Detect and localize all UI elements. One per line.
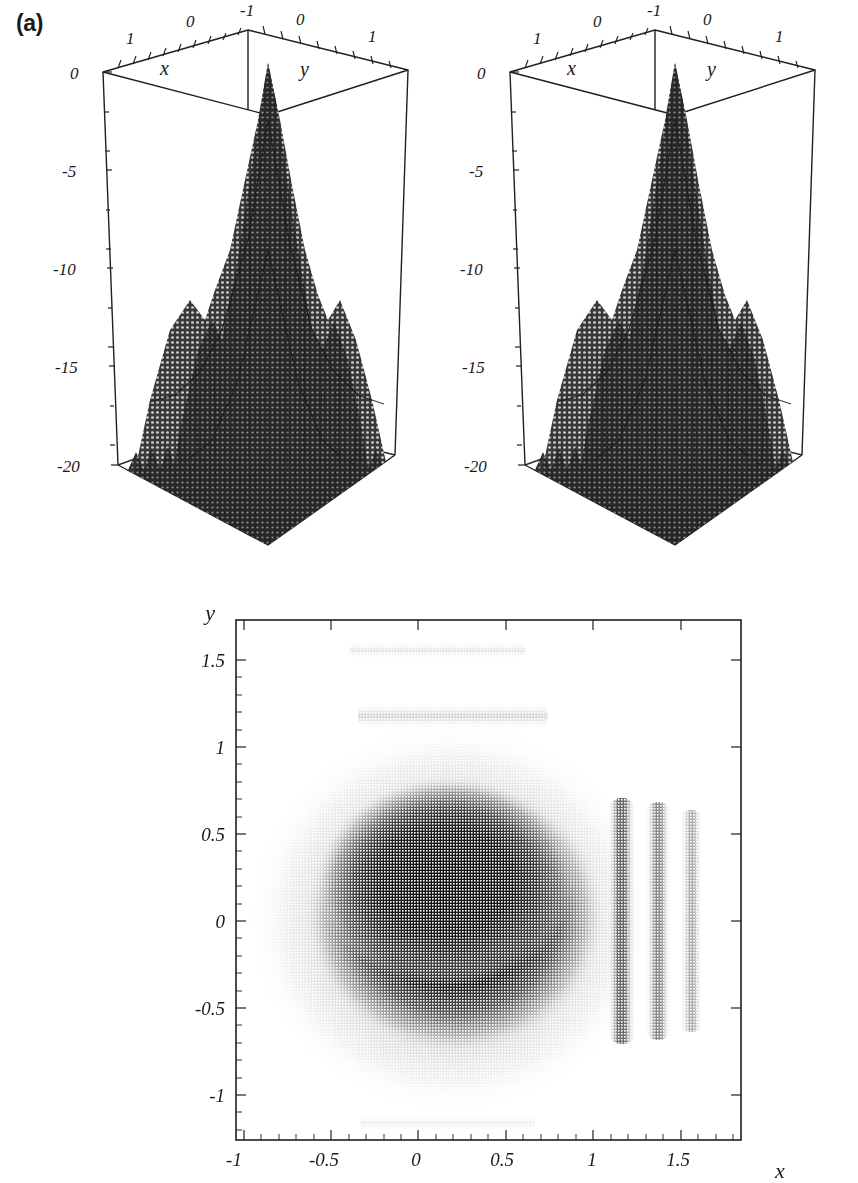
z-tick-m5: -5 xyxy=(469,162,483,181)
x-tick-1: 1 xyxy=(126,29,135,48)
horizontal-fringe-1 xyxy=(358,702,548,730)
vertical-fringe-2 xyxy=(645,802,671,1040)
z-tick-0: 0 xyxy=(70,64,79,83)
y-axis-label: y xyxy=(298,58,309,81)
x-tick-m1: -1 xyxy=(647,1,661,20)
x-tick-label-1: -0.5 xyxy=(309,1149,339,1170)
x-tick-label-4: 1 xyxy=(587,1149,597,1170)
y-tick-label-3: 0 xyxy=(216,911,226,932)
z-tick-m15: -15 xyxy=(55,358,78,377)
surface-plot-left: 0 -5 -10 -15 -20 xyxy=(0,0,429,580)
y-tick-label-4: -0.5 xyxy=(195,998,225,1019)
z-tick-m15: -15 xyxy=(462,358,485,377)
y-tick-1: 1 xyxy=(775,27,784,46)
x-tick-label-0: -1 xyxy=(226,1149,242,1170)
right-axis-ticks xyxy=(731,660,741,1095)
x-tick-label-2: 0 xyxy=(411,1149,421,1170)
y-tick-label-0: 1.5 xyxy=(201,650,225,671)
x-axis-label: x xyxy=(566,57,576,79)
x-tick-1: 1 xyxy=(533,29,542,48)
x-tick-0: 0 xyxy=(186,12,195,31)
y-tick-0: 0 xyxy=(703,10,712,29)
y-tick-label-1: 1 xyxy=(216,737,226,758)
density-image xyxy=(247,642,703,1132)
surface-plot-right-svg: 0 -5 -10 -15 -20 1 xyxy=(407,0,836,580)
vertical-fringe-1 xyxy=(608,798,636,1044)
y-tick-label-2: 0.5 xyxy=(201,824,225,845)
y-tick-0: 0 xyxy=(296,10,305,29)
y-axis-label: y xyxy=(705,58,716,81)
z-tick-m20: -20 xyxy=(57,457,80,476)
z-tick-0: 0 xyxy=(477,64,486,83)
surface-plot-right: 0 -5 -10 -15 -20 1 xyxy=(407,0,836,580)
figure-root: (a) xyxy=(0,0,858,1183)
z-tick-m10: -10 xyxy=(53,260,76,279)
y-axis-minor-ticks xyxy=(236,677,242,1130)
y-axis-label: y xyxy=(203,600,215,625)
y-tick-1: 1 xyxy=(368,27,377,46)
y-axis-ticks xyxy=(236,660,246,1095)
surface-mesh-right xyxy=(535,62,799,580)
z-axis-labels-left: 0 -5 -10 -15 -20 xyxy=(53,64,80,476)
top-axis-ticks xyxy=(244,620,681,630)
x-tick-label-3: 0.5 xyxy=(490,1149,514,1170)
x-axis-label: x xyxy=(774,1158,785,1183)
surface-plot-left-svg: 0 -5 -10 -15 -20 xyxy=(0,0,429,580)
y-tick-label-5: -1 xyxy=(209,1085,225,1106)
panel-b: (b) xyxy=(0,580,858,1183)
x-axis-label: x xyxy=(159,57,169,79)
z-tick-m5: -5 xyxy=(62,162,76,181)
z-tick-m10: -10 xyxy=(460,260,483,279)
horizontal-fringe-2 xyxy=(350,642,525,659)
x-tick-m1: -1 xyxy=(240,1,254,20)
z-tick-m20: -20 xyxy=(464,457,487,476)
panel-a: (a) xyxy=(0,0,858,580)
x-tick-0: 0 xyxy=(593,12,602,31)
density-core-bulge xyxy=(315,775,575,985)
x-tick-label-5: 1.5 xyxy=(666,1149,690,1170)
y-tick-labels: 1.5 1 0.5 0 -0.5 -1 xyxy=(195,650,226,1106)
x-tick-labels: -1 -0.5 0 0.5 1 1.5 xyxy=(226,1149,690,1170)
x-axis-minor-ticks xyxy=(261,1134,733,1140)
density-plot: -1 -0.5 0 0.5 1 1.5 x 1.5 1 0.5 0 -0.5 -… xyxy=(0,580,858,1183)
z-axis-labels-right: 0 -5 -10 -15 -20 xyxy=(460,64,487,476)
horizontal-fringe-3 xyxy=(360,1114,535,1132)
surface-mesh-left xyxy=(128,62,392,580)
vertical-fringe-3 xyxy=(679,810,703,1032)
density-plot-svg: -1 -0.5 0 0.5 1 1.5 x 1.5 1 0.5 0 -0.5 -… xyxy=(0,580,858,1183)
